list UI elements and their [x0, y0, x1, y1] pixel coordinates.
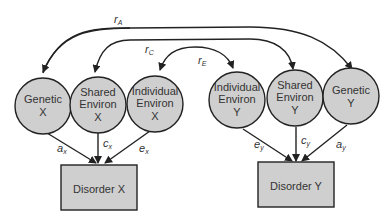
- node-individual-environ-x: Individual Environ X: [127, 76, 183, 132]
- acde-twin-model-diagram: rA rC rE ax cx ex ey cy ay Genetic X Sha…: [0, 0, 392, 223]
- svg-text:Y: Y: [291, 104, 299, 116]
- svg-text:Shared: Shared: [80, 86, 115, 98]
- label-cy: cy: [301, 134, 311, 148]
- label-rC: rC: [145, 43, 155, 56]
- svg-text:Environ: Environ: [136, 97, 173, 109]
- node-genetic-y: Genetic Y: [323, 68, 379, 124]
- svg-text:Y: Y: [233, 106, 241, 118]
- label-ay: ay: [336, 138, 346, 152]
- correlation-arc-rC-right: [130, 39, 293, 69]
- label-rA: rA: [114, 13, 123, 26]
- label-cx: cx: [103, 137, 113, 150]
- correlation-arc-rE: [160, 47, 195, 70]
- label-rE: rE: [198, 54, 207, 67]
- svg-text:Shared: Shared: [277, 79, 312, 91]
- svg-text:Genetic: Genetic: [332, 84, 370, 96]
- node-disorder-y: Disorder Y: [258, 162, 334, 207]
- path-ax: [47, 133, 96, 163]
- svg-text:Environ: Environ: [79, 98, 116, 110]
- correlation-arc-rA: [43, 27, 352, 73]
- path-ey: [243, 129, 292, 161]
- correlation-arc-rA-start: [43, 28, 130, 72]
- correlation-arc-rC: [95, 40, 130, 72]
- node-disorder-x: Disorder X: [61, 165, 137, 210]
- svg-text:Individual: Individual: [214, 81, 260, 93]
- node-shared-environ-y: Shared Environ Y: [267, 70, 323, 126]
- svg-text:Genetic: Genetic: [24, 93, 62, 105]
- node-shared-environ-x: Shared Environ X: [70, 77, 126, 133]
- svg-text:X: X: [94, 111, 102, 123]
- svg-text:Individual: Individual: [132, 85, 178, 97]
- svg-text:Environ: Environ: [218, 93, 255, 105]
- svg-text:Environ: Environ: [276, 91, 313, 103]
- svg-text:X: X: [39, 106, 47, 118]
- svg-text:Disorder Y: Disorder Y: [270, 180, 322, 192]
- label-ex: ex: [139, 142, 149, 155]
- svg-text:X: X: [151, 110, 159, 122]
- label-ey: ey: [254, 138, 264, 152]
- svg-text:Disorder X: Disorder X: [73, 183, 126, 195]
- svg-text:Y: Y: [347, 97, 355, 109]
- node-individual-environ-y: Individual Environ Y: [209, 72, 265, 128]
- node-genetic-x: Genetic X: [15, 78, 71, 134]
